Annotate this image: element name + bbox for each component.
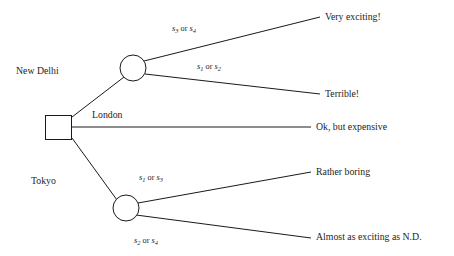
edge-chance-top-to-terrible — [145, 74, 320, 94]
state-subscript: 1 — [142, 176, 145, 183]
state-label-bottom-lower: s2 or s4 — [134, 236, 158, 245]
state-conjunction: or — [146, 173, 157, 182]
outcome-label-very-exciting: Very exciting! — [325, 12, 381, 22]
decision-node-square — [46, 116, 72, 140]
state-subscript: 3 — [160, 176, 163, 183]
state-label-bottom-upper: s1 or s3 — [139, 173, 163, 182]
outcome-label-terrible: Terrible! — [325, 89, 359, 99]
state-conjunction: or — [141, 236, 152, 245]
chance-node-top-circle — [120, 55, 146, 81]
state-subscript: 3 — [175, 27, 178, 34]
branch-label-new-delhi: New Delhi — [16, 66, 59, 76]
outcome-label-ok-but-expensive: Ok, but expensive — [316, 122, 387, 132]
state-conjunction: or — [179, 24, 190, 33]
branch-label-london: London — [92, 110, 122, 120]
state-subscript: 4 — [193, 27, 196, 34]
outcome-label-almost-as-exciting: Almost as exciting as N.D. — [316, 232, 422, 242]
branch-label-tokyo: Tokyo — [31, 176, 56, 186]
edge-decision-to-tokyo — [72, 138, 117, 200]
chance-node-bottom-circle — [113, 195, 139, 221]
state-subscript: 2 — [137, 239, 140, 246]
edge-chance-top-to-very-exciting — [144, 17, 320, 61]
edge-chance-bottom-to-almost-as-exciting — [136, 215, 311, 238]
state-conjunction: or — [204, 62, 215, 71]
state-subscript: 1 — [200, 65, 203, 72]
decision-tree-figure: New Delhi London Tokyo s3 or s4 s1 or s2… — [0, 0, 454, 256]
state-label-top-lower: s1 or s2 — [197, 62, 221, 71]
state-subscript: 4 — [155, 239, 158, 246]
edge-chance-bottom-to-rather-boring — [138, 172, 311, 203]
outcome-label-rather-boring: Rather boring — [316, 167, 370, 177]
state-label-top-upper: s3 or s4 — [172, 24, 196, 33]
state-subscript: 2 — [218, 65, 221, 72]
